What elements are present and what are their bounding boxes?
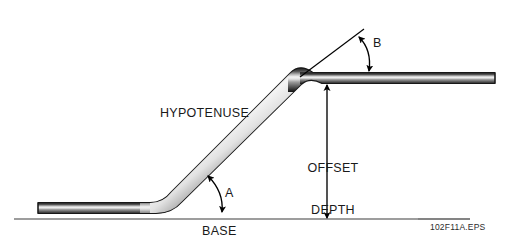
tube-upper-run (300, 72, 500, 84)
offset-depth-label: OFFSET DEPTH (302, 133, 364, 245)
angle-a-indicator (208, 176, 222, 212)
base-label: BASE (202, 224, 237, 238)
hypotenuse-extension-line (300, 29, 364, 77)
diagram-canvas (0, 0, 507, 248)
angle-b-indicator (300, 29, 370, 77)
offset-depth-label-line1: OFFSET (302, 161, 364, 175)
offset-tube (30, 50, 500, 225)
angle-b-arc (359, 37, 370, 71)
offset-depth-label-line2: DEPTH (302, 203, 364, 217)
figure-id-label: 102F11A.EPS (430, 223, 485, 233)
offset-bend-diagram: HYPOTENUSE BASE OFFSET DEPTH A B 102F11A… (0, 0, 507, 248)
angle-a-label: A (225, 186, 233, 200)
angle-a-arc (208, 176, 222, 212)
tube-outline (38, 68, 495, 214)
hypotenuse-label: HYPOTENUSE (160, 106, 249, 120)
angle-b-label: B (373, 36, 381, 50)
